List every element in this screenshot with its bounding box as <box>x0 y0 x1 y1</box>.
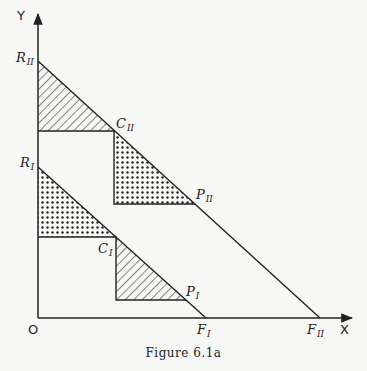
label-R-I: RI <box>20 155 34 172</box>
label-F-I: FI <box>197 322 211 339</box>
y-axis-label: Y <box>17 8 25 23</box>
figure-caption: Figure 6.1a <box>0 346 367 360</box>
diagram-canvas <box>0 0 367 371</box>
label-P-I: PI <box>186 284 199 301</box>
label-P-II: PII <box>196 187 213 204</box>
line-II <box>38 61 320 318</box>
label-C-I: CI <box>98 241 113 258</box>
label-R-II: RII <box>16 50 34 67</box>
x-axis-label: X <box>340 322 349 337</box>
label-F-II: FII <box>307 322 324 339</box>
label-C-II: CII <box>116 116 134 133</box>
origin-label: O <box>28 322 38 337</box>
